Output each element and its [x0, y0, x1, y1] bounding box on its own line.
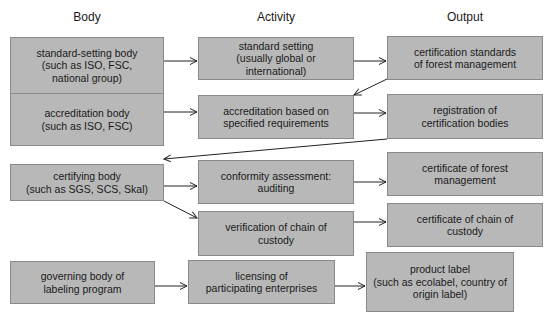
box-standard-setting: standard setting (usually global or inte…: [198, 37, 354, 80]
column-header-body: Body: [7, 10, 167, 24]
column-header-output: Output: [385, 10, 545, 24]
box-product-label: product label (such as ecolabel, country…: [366, 252, 514, 312]
box-certificate-forest: certificate of forest management: [387, 152, 543, 196]
arrow-registration-to-certifying: [164, 139, 387, 159]
column-header-activity: Activity: [196, 10, 356, 24]
box-certificate-chain: certificate of chain of custody: [387, 203, 543, 247]
box-accreditation-based: accreditation based on specified require…: [198, 95, 354, 139]
box-governing-body: governing body of labeling program: [10, 261, 155, 304]
arrow-cert-standards-to-accreditation: [354, 79, 387, 95]
box-certification-standards: certification standards of forest manage…: [387, 36, 543, 80]
arrow-certifying-to-verification: [164, 201, 197, 218]
box-certifying-body: certifying body (such as SGS, SCS, Skal): [10, 164, 164, 201]
box-verification-chain: verification of chain of custody: [198, 211, 354, 256]
box-licensing: licensing of participating enterprises: [188, 260, 335, 304]
box-standard-setting-body: standard-setting body (such as ISO, FSC,…: [10, 37, 164, 94]
box-accreditation-body: accreditation body (such as ISO, FSC): [10, 93, 164, 146]
box-registration: registration of certification bodies: [387, 94, 543, 139]
box-conformity-assessment: conformity assessment: auditing: [198, 160, 354, 204]
